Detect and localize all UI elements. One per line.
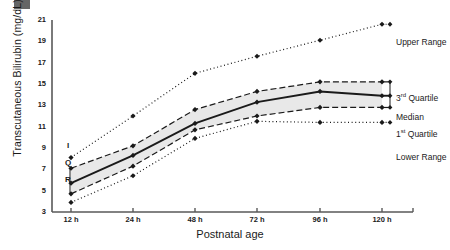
legend-item-third-quartile: 3rd Quartile	[396, 92, 438, 103]
x-tick-label: 24 h	[113, 215, 153, 224]
y-tick-label: 3	[24, 207, 46, 216]
y-tick-label: 9	[24, 143, 46, 152]
legend-marker	[388, 120, 393, 125]
data-point-marker	[192, 136, 197, 141]
y-tick-label: 21	[24, 15, 46, 24]
iqr-letter: R	[63, 175, 73, 184]
x-tick-label: 12 h	[51, 215, 91, 224]
y-tick-label: 19	[24, 36, 46, 45]
x-tick-label: 96 h	[300, 215, 340, 224]
data-point-marker	[317, 38, 322, 43]
legend-third-quartile-rest: Quartile	[408, 93, 438, 103]
legend-marker	[388, 22, 393, 27]
data-point-marker	[317, 120, 322, 125]
data-point-marker	[68, 200, 73, 205]
chart-figure: Transcutaneous Bilirubin (mg/dL) Postnat…	[0, 0, 450, 250]
x-axis-title: Postnatal age	[150, 228, 310, 240]
legend-first-quartile-sup: st	[401, 128, 406, 134]
legend-third-quartile-sup: rd	[401, 92, 406, 98]
legend-item-lower-range: Lower Range	[396, 152, 447, 162]
y-tick-label: 11	[24, 122, 46, 131]
data-point-marker	[379, 22, 384, 27]
x-tick-label: 120 h	[362, 215, 402, 224]
data-point-marker	[192, 71, 197, 76]
data-point-marker	[254, 119, 259, 124]
legend-item-upper-range: Upper Range	[396, 37, 447, 47]
x-tick-label: 48 h	[175, 215, 215, 224]
y-tick-label: 15	[24, 79, 46, 88]
data-point-marker	[379, 120, 384, 125]
x-tick-label: 72 h	[237, 215, 277, 224]
data-point-marker	[130, 173, 135, 178]
iqr-letter: I	[63, 141, 73, 150]
legend-item-median: Median	[396, 112, 424, 122]
legend-first-quartile-rest: Quartile	[408, 129, 438, 139]
chart-plot-area	[0, 0, 450, 250]
legend-item-first-quartile: 1st Quartile	[396, 128, 438, 139]
data-point-marker	[254, 54, 259, 59]
y-axis-title: Transcutaneous Bilirubin (mg/dL)	[11, 0, 23, 173]
y-tick-label: 17	[24, 58, 46, 67]
y-tick-label: 13	[24, 100, 46, 109]
y-tick-label: 5	[24, 186, 46, 195]
iqr-letter: Q	[63, 158, 73, 167]
y-tick-label: 7	[24, 164, 46, 173]
